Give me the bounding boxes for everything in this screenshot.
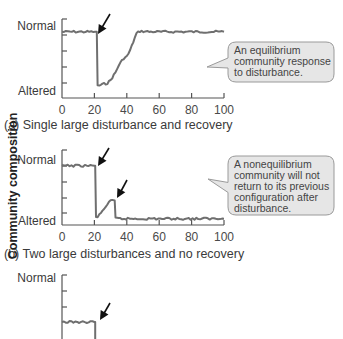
x-tick-label: 20 [88, 103, 102, 117]
arrow-head-icon [98, 156, 107, 166]
callout-text: disturbance. [234, 202, 291, 214]
y-label-normal: Normal [17, 271, 56, 285]
y-label-normal: Normal [17, 153, 56, 167]
y-label-normal: Normal [17, 19, 56, 33]
x-tick-label: 40 [120, 230, 134, 244]
data-line [62, 31, 224, 86]
panel-a: NormalAltered020406080100(a) Single larg… [4, 14, 334, 132]
data-line [62, 165, 224, 220]
x-tick-label: 0 [59, 103, 66, 117]
callout-text: to disturbance. [234, 66, 303, 78]
y-label-altered: Altered [18, 84, 56, 98]
data-line [62, 321, 95, 339]
arrow-head-icon [98, 24, 106, 34]
x-tick-label: 60 [153, 103, 167, 117]
x-tick-label: 80 [185, 230, 199, 244]
x-tick-label: 80 [185, 103, 199, 117]
panel-c: Normal [17, 271, 110, 339]
x-tick-label: 60 [153, 230, 167, 244]
x-tick-label: 40 [120, 103, 134, 117]
x-tick-label: 0 [59, 230, 66, 244]
panel-b: NormalAltered020406080100(b) Two large d… [4, 148, 334, 261]
figure: NormalAltered020406080100(a) Single larg… [0, 0, 343, 339]
x-tick-label: 100 [214, 230, 234, 244]
y-axis-label: Community composition [6, 113, 20, 260]
x-tick-label: 100 [214, 103, 234, 117]
panel-caption: (a) Single large disturbance and recover… [4, 118, 233, 132]
panel-caption: (b) Two large disturbances and no recove… [4, 247, 245, 261]
y-label-altered: Altered [18, 214, 56, 228]
x-tick-label: 20 [88, 230, 102, 244]
